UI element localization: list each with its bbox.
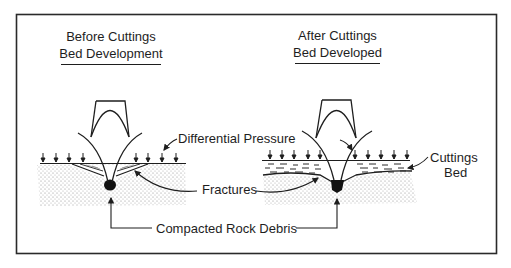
- after-title-line2: Bed Developed: [285, 44, 390, 61]
- label-differential-pressure: Differential Pressure: [178, 131, 296, 146]
- label-cuttings-bed-line2: Bed: [444, 165, 467, 180]
- after-title-line1: After Cuttings: [285, 27, 390, 44]
- after-title: After Cuttings Bed Developed: [285, 27, 390, 61]
- before-panel-illustration: [37, 101, 186, 206]
- after-panel-illustration: [262, 100, 417, 205]
- label-cuttings-bed-line1: Cuttings: [430, 150, 478, 165]
- label-compacted-rock-debris: Compacted Rock Debris: [156, 221, 297, 236]
- label-fractures: Fractures: [202, 182, 257, 197]
- before-title-line2: Bed Development: [56, 45, 166, 62]
- diagram-canvas: Before Cuttings Bed Development After Cu…: [0, 0, 511, 268]
- before-debris-ball: [104, 180, 116, 191]
- before-title-line1: Before Cuttings: [56, 28, 166, 45]
- before-title: Before Cuttings Bed Development: [56, 28, 166, 62]
